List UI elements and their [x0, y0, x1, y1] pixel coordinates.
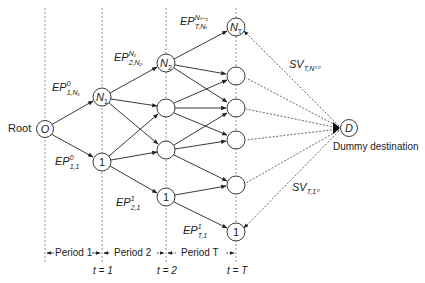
- ep-base: EP: [183, 224, 198, 236]
- sv-base: SV: [292, 181, 307, 193]
- node-tT-r3: [227, 131, 245, 149]
- ep-sup: 0: [67, 80, 71, 87]
- edge-label-ep-1-N1: EP01,N₁: [52, 82, 85, 98]
- edge-label-sv-T-NT: SVT,Nᵀ⁰: [289, 59, 320, 72]
- edge-n1-n2: [110, 67, 157, 93]
- edge-label-ep-2-1: EP12,1: [116, 197, 149, 213]
- edge-n2-r1: [175, 65, 226, 74]
- period-T-label: Period T: [181, 248, 219, 258]
- sv-sub: T,1⁰: [307, 188, 319, 195]
- edge-1-a: [109, 114, 158, 156]
- root-label: Root: [8, 123, 31, 134]
- dummy-edge-r1: [246, 78, 339, 127]
- edge-n1-b: [109, 103, 158, 144]
- edge-c-r4: [175, 186, 226, 195]
- edge-1-c: [110, 166, 157, 193]
- ep-sub: 1,1: [70, 163, 80, 170]
- ep-base: EP: [52, 81, 67, 93]
- time-mark-2: t = 2: [157, 266, 177, 276]
- nT-sub: T: [238, 28, 242, 35]
- ep-sup: N₁: [129, 50, 136, 57]
- dummy-edge-1T: [244, 131, 339, 228]
- ep-sub: 1,N₁: [67, 89, 80, 96]
- node-1-t2-label: 1: [156, 190, 176, 204]
- nodes: [37, 18, 358, 241]
- ep-sub: T,Nₜ: [195, 23, 208, 30]
- node-t2-a: [157, 99, 175, 117]
- n2-sub: 2: [168, 64, 172, 71]
- edge-a-r1: [174, 80, 227, 103]
- ep-sub: 2,N₂: [129, 59, 143, 66]
- node-tT-r1: [227, 67, 245, 85]
- period-2-label: Period 2: [114, 248, 151, 258]
- ep-base: EP: [114, 51, 129, 63]
- sv-sub: T,Nᵀ⁰: [304, 65, 320, 72]
- edge-label-sv-T-1: SVT,1⁰: [292, 182, 319, 195]
- node-n2-label: N2: [156, 56, 176, 70]
- ep-sup: Nₜ₋₁: [195, 14, 208, 21]
- node-1-tT-label: 1: [226, 225, 246, 239]
- time-mark-1: t = 1: [93, 266, 113, 276]
- node-t2-b: [157, 141, 175, 159]
- node-tT-r2: [227, 99, 245, 117]
- ep-sup: 1: [131, 195, 135, 202]
- ep-sub: T,1: [198, 232, 207, 239]
- edge-root-n1: [51, 101, 93, 125]
- nT-base: N: [230, 21, 238, 33]
- ep-base: EP: [180, 15, 195, 27]
- edge-label-ep-2-N2: EPN₁2,N₂: [114, 52, 147, 68]
- node-1-t1-label: 1: [92, 155, 112, 169]
- ep-sup: 1: [198, 223, 202, 230]
- time-mark-T: t = T: [227, 266, 247, 276]
- time-lines: [45, 8, 236, 262]
- edge-n1-a: [111, 99, 157, 106]
- edge-b-r2: [174, 113, 227, 145]
- edge-b-r4: [174, 155, 227, 181]
- ep-sub: 2,1: [131, 204, 141, 211]
- sv-base: SV: [289, 58, 304, 70]
- edge-label-ep-T-NT: EPNₜ₋₁T,Nₜ: [180, 16, 213, 32]
- n2-base: N: [160, 57, 168, 69]
- node-n1-label: N1: [92, 90, 112, 104]
- edge-1-b: [111, 152, 157, 160]
- ep-base: EP: [116, 196, 131, 208]
- node-nT-label: NT: [226, 20, 246, 34]
- edge-label-ep-T-1: EP1T,1: [183, 225, 216, 241]
- node-dest-label: D: [339, 121, 359, 135]
- n1-base: N: [96, 91, 104, 103]
- node-tT-r4: [227, 176, 245, 194]
- node-root-label: O: [35, 122, 55, 136]
- destination-label: Dummy destination: [333, 142, 419, 152]
- ep-base: EP: [55, 155, 70, 167]
- period-1-label: Period 1: [55, 248, 92, 258]
- ep-sup: 0: [70, 154, 74, 161]
- edge-a-r3: [174, 113, 227, 135]
- n1-sub: 1: [104, 98, 108, 105]
- dummy-edge-nT: [244, 31, 339, 126]
- edge-b-r3: [175, 141, 226, 149]
- edge-label-ep-1-1: EP01,1: [55, 156, 88, 172]
- edge-n2-nT: [174, 31, 227, 59]
